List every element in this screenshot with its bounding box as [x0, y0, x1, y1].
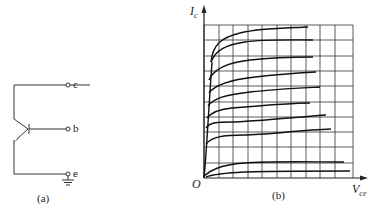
chart-grid [204, 25, 353, 178]
terminal-c-label: c [73, 79, 78, 90]
x-axis-label: Vce [352, 183, 366, 198]
terminal-e-label: e [73, 168, 78, 179]
y-axis-label: Ic [190, 5, 198, 20]
caption-b: (b) [272, 190, 285, 201]
terminal-b-label: b [73, 123, 79, 134]
terminal-e [66, 172, 70, 176]
x-axis-arrow-icon [360, 176, 368, 181]
terminal-b [66, 127, 70, 131]
caption-a: (a) [37, 193, 49, 204]
origin-label: O [192, 178, 201, 190]
axes [204, 10, 362, 178]
terminal-c [66, 83, 70, 87]
y-axis-arrow-icon [202, 5, 207, 13]
